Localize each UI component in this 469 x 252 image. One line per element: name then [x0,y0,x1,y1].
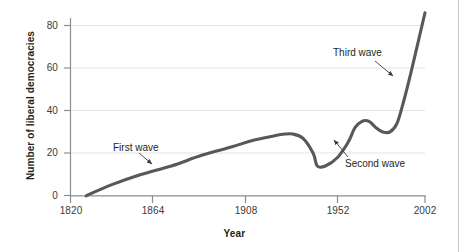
y-tick-label-60: 60 [32,62,58,73]
x-axis-title: Year [0,228,469,239]
y-tick-label-0: 0 [32,190,58,201]
x-tick-label-1820: 1820 [51,205,91,216]
x-tick-label-1864: 1864 [133,205,173,216]
y-axis [64,18,71,196]
y-tick-label-80: 80 [32,20,58,31]
annotation-second-wave: Second wave [345,158,405,169]
x-tick-label-2002: 2002 [405,205,445,216]
y-axis-title: Number of liberal democracies [25,16,36,196]
x-axis [70,196,426,203]
x-tick-label-1952: 1952 [318,205,358,216]
chart-figure: 80 60 40 20 0 1820 1864 1908 1952 2002 Y… [0,0,469,252]
y-tick-label-20: 20 [32,147,58,158]
annotation-third-wave: Third wave [333,47,382,58]
annotation-leader-lines [139,61,393,164]
gridlines [70,26,425,154]
first-wave-arrow [139,153,152,164]
annotation-first-wave: First wave [113,142,159,153]
x-tick-label-1908: 1908 [226,205,266,216]
y-tick-label-40: 40 [32,105,58,116]
